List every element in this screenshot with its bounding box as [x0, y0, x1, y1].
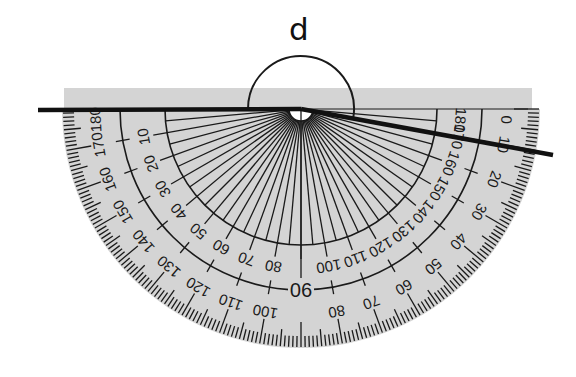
inner-scale-label: 180	[451, 107, 470, 133]
degree-tick	[289, 336, 290, 347]
center-label-90: 90	[290, 279, 312, 301]
protractor-svg: 1020304050607080100110120130140150160170…	[0, 0, 576, 377]
degree-tick	[317, 335, 318, 346]
degree-tick	[313, 336, 314, 347]
inner-scale-label: 10	[134, 127, 154, 146]
degree-tick	[64, 125, 75, 126]
degree-tick	[284, 335, 285, 346]
angle-label-d: d	[289, 14, 309, 45]
inner-scale-label: 80	[264, 257, 283, 277]
left-arm-line	[38, 109, 301, 110]
protractor-diagram: 1020304050607080100110120130140150160170…	[0, 0, 576, 377]
outer-scale-label: 0	[498, 115, 515, 124]
degree-tick	[527, 125, 538, 126]
degree-tick	[63, 121, 74, 122]
outer-scale-label: 80	[327, 302, 346, 322]
degree-tick	[528, 121, 539, 122]
